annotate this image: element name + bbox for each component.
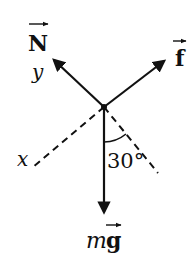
- angle-arc: [104, 134, 126, 142]
- origin-point: [101, 104, 107, 110]
- label-N: N: [28, 24, 48, 56]
- label-y: y: [31, 60, 44, 84]
- x-axis-dashed-line: [32, 107, 104, 168]
- svg-text:m: m: [86, 228, 107, 253]
- label-x: x: [17, 147, 28, 171]
- normal-force-arrow: [54, 60, 104, 107]
- angle-label: 30°: [107, 149, 144, 173]
- svg-text:g: g: [106, 227, 121, 253]
- label-mg: m g: [86, 225, 121, 253]
- svg-text:f: f: [175, 45, 186, 71]
- svg-text:N: N: [28, 30, 48, 56]
- label-f: f: [173, 41, 186, 71]
- free-body-diagram: N y f x 30° m g: [0, 0, 189, 259]
- friction-force-arrow: [104, 61, 164, 107]
